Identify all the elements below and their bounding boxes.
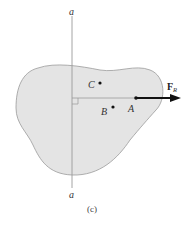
force-label: FR [167,81,177,93]
point-b-dot [111,105,114,108]
force-arrow-head [170,94,181,102]
point-c-label: C [88,79,95,90]
axis-label-top: a [69,6,74,17]
rigid-body-diagram: a a C B A FR (c) [0,0,192,230]
point-b-label: B [101,106,107,117]
point-a-label: A [127,103,135,114]
force-subscript: R [172,86,177,93]
subfigure-label: (c) [87,204,97,214]
point-c-dot [98,81,101,84]
axis-label-bottom: a [69,189,74,200]
point-a-dot [134,96,138,100]
